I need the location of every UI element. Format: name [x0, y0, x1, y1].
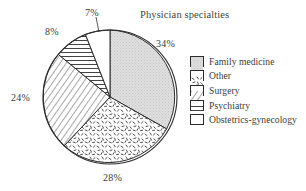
legend-swatch-psychiatry: [190, 100, 204, 111]
legend-item-surgery[interactable]: Surgery: [190, 83, 304, 98]
legend-label-obstetrics-gynecology: Obstetrics-gynecology: [209, 114, 297, 125]
legend-label-family-medicine: Family medicine: [209, 56, 275, 67]
slice-label-other: 28%: [103, 172, 122, 183]
legend-label-other: Other: [209, 70, 231, 81]
legend-item-other[interactable]: Other: [190, 69, 304, 84]
legend-item-psychiatry[interactable]: Psychiatry: [190, 98, 304, 113]
chart-title: Physician specialties: [140, 9, 270, 20]
pie-chart-figure: Physician specialties 34% 28% 24% 8% 7% …: [0, 0, 306, 191]
slice-label-obstetrics-gynecology: 7%: [85, 7, 99, 18]
slice-label-family-medicine: 34%: [156, 38, 175, 49]
legend-swatch-surgery: [190, 85, 204, 96]
slice-label-surgery: 24%: [11, 92, 30, 103]
legend-item-family-medicine[interactable]: Family medicine: [190, 54, 304, 69]
legend-label-psychiatry: Psychiatry: [209, 100, 250, 111]
legend-label-surgery: Surgery: [209, 85, 240, 96]
leader-line-obgyn: [96, 17, 99, 32]
legend-swatch-other: [190, 70, 204, 81]
legend-swatch-family-medicine: [190, 56, 204, 67]
legend-swatch-obstetrics-gynecology: [190, 114, 204, 125]
chart-legend: Family medicine Other Surgery Psychiatry…: [190, 54, 304, 127]
slice-label-psychiatry: 8%: [45, 26, 59, 37]
legend-item-obstetrics-gynecology[interactable]: Obstetrics-gynecology: [190, 112, 304, 127]
